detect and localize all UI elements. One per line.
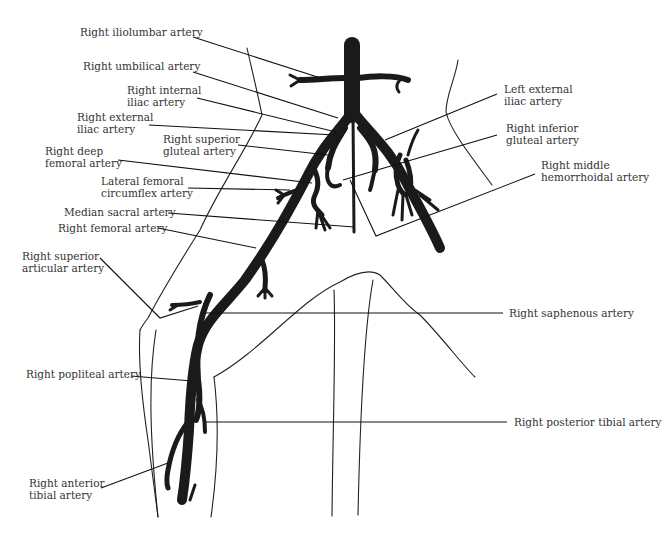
label-right-iliolumbar-artery: Right iliolumbar artery bbox=[80, 26, 203, 38]
label-right-superior-articular-artery: Right superior articular artery bbox=[22, 250, 104, 274]
label-right-femoral-artery: Right femoral artery bbox=[58, 222, 167, 234]
tail-right-line bbox=[358, 280, 373, 515]
femoral-side-branch bbox=[262, 260, 266, 288]
tail-left-line bbox=[332, 290, 335, 516]
median-sacral bbox=[353, 115, 354, 232]
label-right-saphenous-artery: Right saphenous artery bbox=[509, 307, 634, 319]
label-right-anterior-tibial-artery: Right anterior tibial artery bbox=[29, 477, 104, 501]
label-right-middle-hemorrhoidal-artery: Right middle hemorrhoidal artery bbox=[541, 159, 649, 183]
label-right-popliteal-artery: Right popliteal artery bbox=[26, 368, 141, 380]
label-right-external-iliac-artery: Right external iliac artery bbox=[77, 111, 153, 135]
label-median-sacral-artery: Median sacral artery bbox=[64, 206, 176, 218]
right-leg-inner-outline bbox=[211, 377, 217, 517]
label-right-deep-femoral-artery: Right deep femoral artery bbox=[45, 145, 122, 169]
right-deep-femoral bbox=[312, 165, 322, 215]
arteries bbox=[167, 45, 440, 500]
label-lateral-femoral-circumflex-artery: Lateral femoral circumflex artery bbox=[101, 175, 193, 199]
label-right-internal-iliac-artery: Right internal iliac artery bbox=[127, 84, 201, 108]
label-right-umbilical-artery: Right umbilical artery bbox=[83, 60, 200, 72]
label-right-superior-gluteal-artery: Right superior gluteal artery bbox=[163, 133, 240, 157]
left-pelvis-outline bbox=[446, 60, 492, 185]
tail-cone-outline bbox=[214, 272, 475, 377]
label-right-inferior-gluteal-artery: Right inferior gluteal artery bbox=[506, 122, 579, 146]
label-left-external-iliac-artery: Left external iliac artery bbox=[504, 83, 573, 107]
label-right-posterior-tibial-artery: Right posterior tibial artery bbox=[514, 416, 662, 428]
